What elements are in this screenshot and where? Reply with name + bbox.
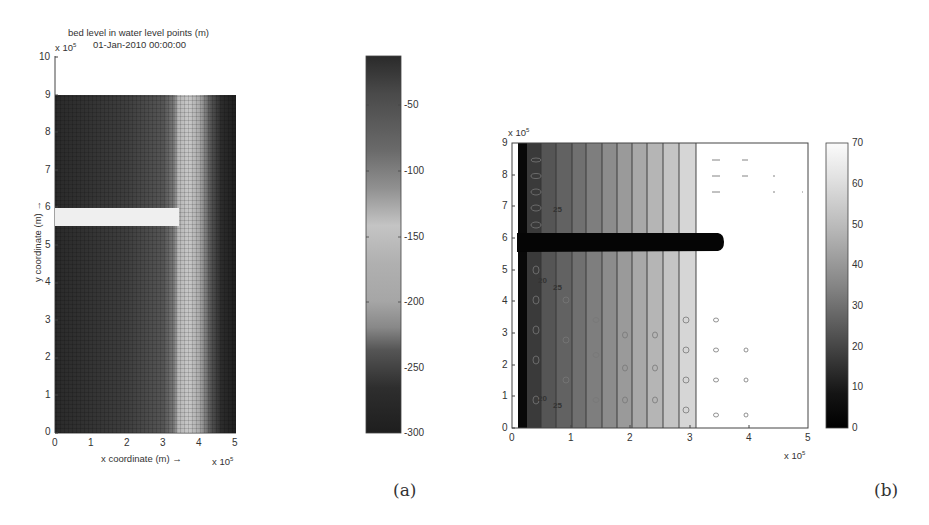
b-xtick: 5 <box>805 432 811 443</box>
b-ytick: 0 <box>502 422 508 433</box>
b-xtick: 2 <box>627 432 633 443</box>
b-xtick: 3 <box>687 432 693 443</box>
contour-label: 25 <box>553 283 562 292</box>
b-ytick: 6 <box>502 232 508 243</box>
b-cbtick: 70 <box>852 137 863 148</box>
x-multiplier-text: x 10 <box>784 450 802 461</box>
panel-b-x-multiplier: x 105 <box>784 450 805 461</box>
b-ytick: 3 <box>502 327 508 338</box>
b-xtick: 4 <box>746 432 752 443</box>
contour-label: 25 <box>553 401 562 410</box>
structure-obstacle <box>517 233 724 252</box>
contour-label: 20 <box>538 394 547 403</box>
b-cbtick: 20 <box>852 341 863 352</box>
b-ytick: 7 <box>502 200 508 211</box>
b-ytick: 1 <box>502 390 508 401</box>
b-cbtick: 40 <box>852 259 863 270</box>
b-ytick: 2 <box>502 359 508 370</box>
caption-b: (b) <box>874 480 898 500</box>
b-ytick: 4 <box>502 295 508 306</box>
b-cbtick: 30 <box>852 300 863 311</box>
b-cbtick: 50 <box>852 219 863 230</box>
contour-label: 20 <box>538 276 547 285</box>
b-cbtick: 10 <box>852 381 863 392</box>
b-ytick: 5 <box>502 264 508 275</box>
panel-b-plot <box>0 0 929 525</box>
x-multiplier-exp: 5 <box>802 450 805 456</box>
b-xtick: 1 <box>568 432 574 443</box>
b-cbtick: 60 <box>852 178 863 189</box>
contour-label: 25 <box>553 205 562 214</box>
b-ytick: 8 <box>502 169 508 180</box>
b-cbtick: 0 <box>852 422 858 433</box>
b-xtick: 0 <box>509 432 515 443</box>
colorbar-b <box>826 143 848 428</box>
b-ytick: 9 <box>502 137 508 148</box>
